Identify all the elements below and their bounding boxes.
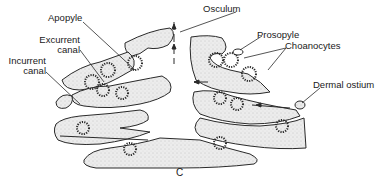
prosopyle [233,49,243,55]
label-choanocytes: Choanocytes [285,41,340,51]
label-prosopyle: Prosopyle [257,30,299,40]
panel-label: C [176,168,183,178]
lower-left-tissue [54,110,150,145]
label-incurrent-line2: canal [2,66,46,76]
label-osculum: Osculum [203,4,240,14]
sponge-canal-diagram [0,0,378,182]
label-excurrent-line2: canal [36,45,80,55]
label-apopyle: Apopyle [48,13,82,23]
incurrent-triangle [56,95,72,109]
label-excurrent-canal: Excurrent canal [36,35,80,55]
osculum-arrows [172,22,176,64]
label-dermal-ostium: Dermal ostium [313,80,374,90]
label-incurrent-canal: Incurrent canal [2,56,46,76]
